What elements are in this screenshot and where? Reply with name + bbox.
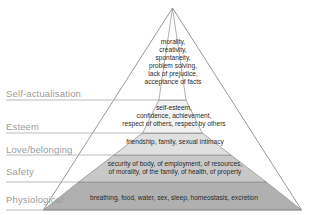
tier-label-self-actualisation: Self-actualisation [6, 88, 81, 99]
tier-content-self-actualisation: morality, creativity, spontaneity, probl… [112, 38, 234, 87]
tier-label-love-belonging: Love/belonging [6, 144, 73, 155]
maslow-pyramid-diagram: Self-actualisation Esteem Love/belonging… [0, 0, 320, 215]
tier-content-love-belonging: friendship, family, sexual intimacy [92, 138, 258, 146]
tier-label-esteem: Esteem [6, 121, 39, 132]
tier-content-esteem: self-esteem, confidence, achievement, re… [104, 104, 244, 128]
tier-label-safety: Safety [6, 166, 34, 177]
tier-content-safety: security of body, of employment, of reso… [80, 160, 270, 176]
tier-content-physiological: breathing, food, water, sex, sleep, home… [60, 194, 288, 202]
tier-label-physiological: Physiological [6, 194, 63, 205]
